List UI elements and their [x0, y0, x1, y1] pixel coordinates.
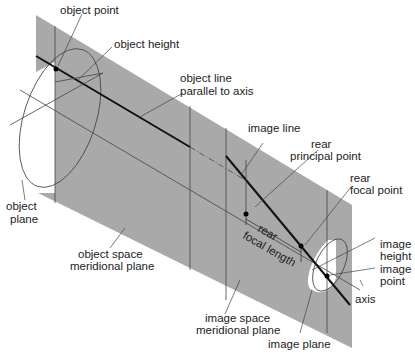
meridional-plane [36, 15, 352, 348]
label-object-space-2: meridional plane [70, 260, 154, 273]
label-object-line-2: parallel to axis [180, 85, 254, 98]
rear-principal-point-dot [244, 212, 249, 217]
object-point-dot [54, 67, 59, 72]
label-rear-focal-2: focal point [350, 184, 402, 197]
rear-focal-point-dot [299, 244, 304, 249]
label-image-plane: image plane [268, 338, 331, 351]
label-object-line-1: object line [180, 72, 232, 85]
image-point-dot [325, 274, 330, 279]
label-image-line: image line [248, 122, 300, 135]
label-object-plane-2: plane [10, 213, 38, 226]
label-rear-principal-2: principal point [290, 150, 361, 163]
label-image-space-2: meridional plane [196, 324, 280, 337]
label-image-height-2: height [380, 250, 411, 263]
label-object-point: object point [60, 4, 119, 17]
label-image-point-2: point [380, 275, 405, 288]
label-axis: axis [355, 293, 375, 306]
label-object-plane-1: object [6, 200, 37, 213]
label-object-height: object height [114, 38, 179, 51]
